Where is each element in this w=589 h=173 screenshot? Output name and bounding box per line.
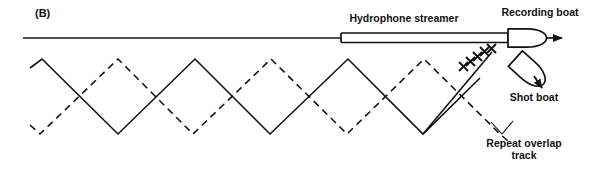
figure-canvas: (B) — [0, 0, 589, 173]
recording-boat-hull — [508, 29, 547, 47]
shot-boat-final-leg — [423, 52, 492, 134]
repeat-overlap-track-label-line2: track — [511, 149, 536, 161]
shot-boat-group — [508, 51, 550, 92]
shot-boat-label: Shot boat — [510, 91, 559, 103]
repeat-overlap-track — [30, 59, 508, 141]
repeat-overlap-track-label-line1: Repeat overlap — [486, 137, 561, 149]
hydrophone-streamer-body — [341, 33, 508, 43]
shot-point-marks-group — [459, 44, 496, 71]
shot-boat-hull — [508, 51, 550, 92]
panel-label: (B) — [35, 7, 51, 19]
hydrophone-streamer-label: Hydrophone streamer — [349, 12, 458, 24]
recording-boat-label: Recording boat — [501, 6, 579, 18]
repeat-overlap-track-group — [30, 59, 508, 141]
seismic-survey-figure: (B) — [0, 0, 589, 173]
shot-boat-solid-track-group — [30, 52, 492, 134]
recording-boat-track-group — [23, 29, 562, 47]
